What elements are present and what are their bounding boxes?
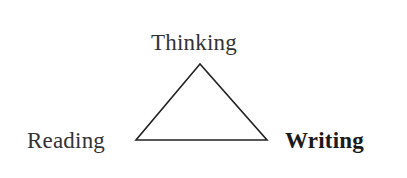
node-label-writing: Writing	[285, 129, 364, 152]
node-label-reading: Reading	[27, 129, 105, 152]
triangle-edges	[136, 64, 267, 140]
node-label-thinking: Thinking	[151, 31, 237, 54]
